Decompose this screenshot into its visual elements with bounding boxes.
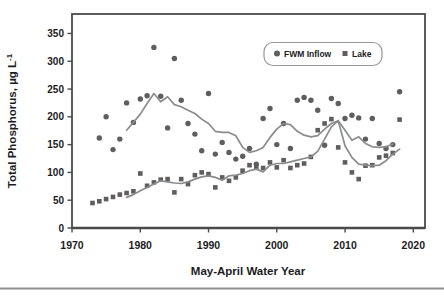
phosphorus-chart: 0501001502002503003501970198019902000201…: [0, 0, 444, 297]
lake-point: [343, 160, 348, 165]
square-marker-icon: [343, 51, 348, 56]
x-tick-label-1970: 1970: [60, 239, 84, 251]
lake-point: [138, 171, 143, 176]
lake-point: [213, 185, 218, 190]
fwm-inflow-point: [356, 115, 361, 120]
fwm-inflow-point: [397, 89, 402, 94]
y-tick-label-250: 250: [47, 84, 64, 95]
lake-point: [281, 158, 286, 163]
lake-point: [329, 117, 334, 122]
y-tick-label-50: 50: [53, 195, 65, 206]
lake-point: [302, 161, 307, 166]
y-tick-label-0: 0: [58, 223, 64, 234]
y-tick-label-300: 300: [47, 56, 64, 67]
fwm-inflow-point: [370, 116, 375, 121]
figure: 0501001502002503003501970198019902000201…: [0, 0, 444, 297]
x-tick-label-1980: 1980: [129, 239, 153, 251]
fwm-inflow-point: [220, 140, 225, 145]
circle-marker-icon: [274, 51, 280, 57]
fwm-inflow-point: [124, 100, 129, 105]
fwm-inflow-point: [97, 135, 102, 140]
lake-point: [124, 191, 129, 196]
y-axis-title: Total Phosphorus, µg L-1: [5, 53, 18, 188]
lake-point: [397, 117, 402, 122]
fwm-inflow-point: [165, 125, 170, 130]
fwm-inflow-point: [117, 136, 122, 141]
x-axis-title: May-April Water Year: [191, 265, 306, 277]
y-tick-label-200: 200: [47, 111, 64, 122]
fwm-inflow-point: [336, 101, 341, 106]
lake-point: [275, 165, 280, 170]
lake-point: [315, 128, 320, 133]
lake-point: [322, 121, 327, 126]
lake-point: [377, 155, 382, 160]
fwm-inflow-point: [308, 98, 313, 103]
fwm-inflow-point: [233, 156, 238, 161]
fwm-inflow-point: [185, 121, 190, 126]
fwm-inflow-point: [172, 56, 177, 61]
fwm-inflow-point: [267, 106, 272, 111]
fwm-inflow-point: [144, 93, 149, 98]
lake-point: [118, 192, 123, 197]
x-tick-label-2020: 2020: [402, 239, 426, 251]
lake-point: [227, 179, 232, 184]
lake-point: [193, 173, 198, 178]
fwm-inflow-point: [192, 131, 197, 136]
legend: FWM Inflow Lake: [264, 43, 382, 66]
lake-point: [199, 170, 204, 175]
y-tick-label-100: 100: [47, 167, 64, 178]
fwm-inflow-point: [240, 154, 245, 159]
fwm-inflow-point: [342, 116, 347, 121]
y-tick-label-350: 350: [47, 28, 64, 39]
fwm-inflow-point: [138, 96, 143, 101]
x-tick-label-2010: 2010: [333, 239, 357, 251]
x-tick-label-2000: 2000: [265, 239, 289, 251]
fwm-inflow-point: [349, 113, 354, 118]
lake-point: [111, 195, 116, 200]
lake-point: [97, 199, 102, 204]
fwm-inflow-point: [295, 98, 300, 103]
lake-point: [104, 197, 109, 202]
fwm-inflow-point: [329, 96, 334, 101]
lake-point: [247, 163, 252, 168]
fwm-inflow-point: [103, 114, 108, 119]
lake-point: [350, 170, 355, 175]
fwm-inflow-point: [377, 141, 382, 146]
lake-point: [295, 163, 300, 168]
lake-point: [165, 177, 170, 182]
fwm-inflow-point: [274, 142, 279, 147]
fwm-inflow-point: [179, 98, 184, 103]
fwm-inflow-point: [288, 146, 293, 151]
fwm-inflow-point: [199, 148, 204, 153]
fwm-inflow-point: [213, 151, 218, 156]
fwm-inflow-point: [226, 150, 231, 155]
lake-point: [336, 145, 341, 150]
fwm-inflow-point: [110, 147, 115, 152]
y-tick-label-150: 150: [47, 139, 64, 150]
fwm-inflow-point: [151, 45, 156, 50]
x-tick-label-1990: 1990: [197, 239, 221, 251]
lake-point: [384, 153, 389, 158]
lake-point: [172, 190, 177, 195]
fwm-inflow-point: [301, 95, 306, 100]
fwm-inflow-point: [206, 91, 211, 96]
lake-point: [288, 166, 293, 171]
legend-label-lake: Lake: [352, 49, 372, 59]
legend-label-fwm-inflow: FWM Inflow: [284, 49, 332, 59]
lake-point: [179, 177, 184, 182]
fwm-inflow-point: [260, 116, 265, 121]
fwm-inflow-point: [315, 108, 320, 113]
lake-point: [90, 201, 95, 206]
lake-point: [356, 177, 361, 182]
